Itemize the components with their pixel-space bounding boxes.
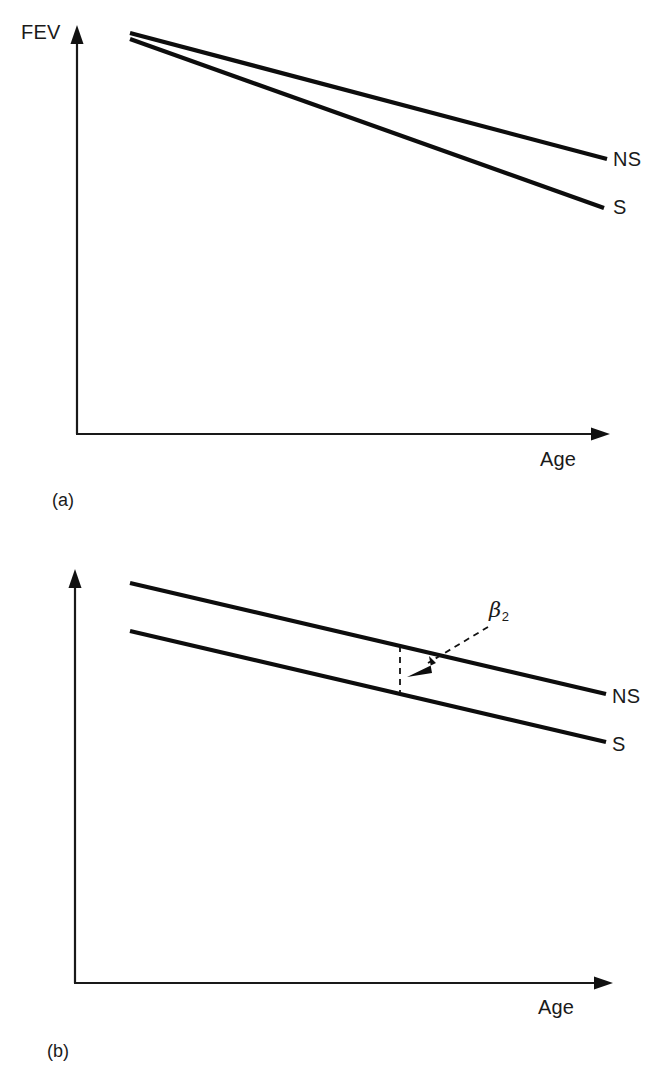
figure-panel-a: FEV Age NS S (a) [0, 0, 660, 530]
beta-symbol: β [489, 598, 501, 622]
panel-a-y-axis-arrowhead [71, 25, 84, 44]
panel-b-y-axis-arrowhead [69, 569, 82, 588]
panel-a-x-axis-arrowhead [591, 428, 610, 441]
panel-a-y-axis-label: FEV [21, 22, 61, 42]
panel-a-trend-line-s [130, 39, 604, 208]
panel-a-series-label-s: S [613, 197, 627, 217]
panel-b-x-axis-arrowhead [594, 977, 613, 990]
panel-a-x-axis-label: Age [540, 449, 576, 469]
panel-b-beta2-arrowhead [407, 656, 436, 677]
beta-subscript: 2 [502, 609, 509, 624]
panel-b-caption: (b) [47, 1042, 69, 1060]
panel-a-caption: (a) [52, 491, 74, 509]
panel-b-series-label-ns: NS [612, 686, 640, 706]
panel-a-series-label-ns: NS [613, 149, 641, 169]
figure-panel-b: FEV Age NS S β2 (b) [0, 530, 660, 1081]
panel-b-trend-line-s [130, 631, 606, 742]
panel-b-trend-line-ns [130, 583, 606, 694]
panel-b-beta2-annotation-label: β2 [489, 600, 508, 621]
panel-a-trend-line-ns [130, 33, 607, 159]
panel-b-x-axis-label: Age [538, 997, 574, 1017]
panel-b-series-label-s: S [612, 734, 626, 754]
